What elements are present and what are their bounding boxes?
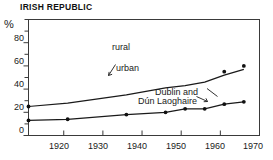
data-point-marker bbox=[66, 117, 70, 121]
x-axis-ticks bbox=[64, 131, 260, 136]
data-point-marker bbox=[222, 70, 226, 74]
data-point-marker bbox=[242, 100, 246, 104]
data-point-marker bbox=[183, 107, 187, 111]
data-point-marker bbox=[124, 113, 128, 117]
plot-frame bbox=[29, 20, 260, 136]
series-line-dublin bbox=[29, 102, 244, 121]
series-line-urban bbox=[29, 69, 244, 106]
data-point-marker bbox=[27, 119, 31, 123]
data-point-marker bbox=[203, 107, 207, 111]
data-point-marker bbox=[242, 64, 246, 68]
data-point-marker bbox=[222, 102, 226, 106]
data-point-marker bbox=[164, 110, 168, 114]
chart-container: IRISH REPUBLIC % 80 60 40 20 0 1920 1930… bbox=[0, 0, 273, 160]
y-axis-ticks bbox=[24, 20, 29, 136]
plot-area bbox=[0, 0, 273, 160]
urban-leader-line bbox=[109, 65, 116, 76]
data-point-marker bbox=[27, 105, 31, 109]
dublin-leader-line-right bbox=[207, 89, 218, 97]
